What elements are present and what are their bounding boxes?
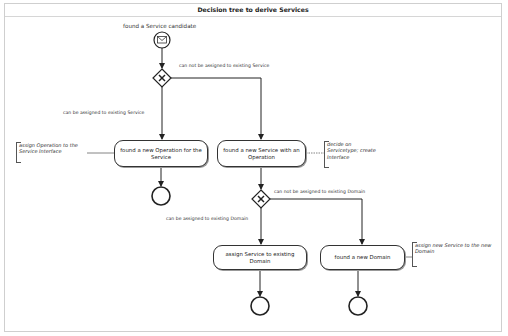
task-label: found a new Service with an Operation	[222, 147, 301, 161]
end-event-2[interactable]	[251, 297, 269, 315]
sequence-flow-gw1-no	[171, 78, 261, 139]
start-event-label: found a Service candidate	[123, 23, 196, 29]
sequence-flow-gw2-no	[270, 199, 362, 244]
task-found-new-operation[interactable]: found a new Operation for the Service	[114, 140, 208, 167]
flow-label-gw2-yes: can be assigned to existing Domain	[166, 216, 248, 222]
start-event[interactable]	[154, 32, 170, 48]
flow-label-gw1-no: can not be assigned to existing Service	[179, 63, 269, 69]
annotation-line: Service Interface	[19, 148, 88, 154]
flow-label-gw1-yes: can be assigned to existing Service	[63, 110, 144, 116]
annotation-bracket	[16, 142, 21, 163]
exclusive-gateway-1[interactable]	[153, 69, 171, 87]
annotation-operation-interface[interactable]: assign Operation to the Service Interfac…	[16, 142, 88, 163]
task-found-new-domain[interactable]: found a new Domain	[320, 245, 405, 270]
task-found-new-service[interactable]: found a new Service with an Operation	[217, 140, 306, 167]
annotation-line: Domain	[415, 248, 502, 254]
annotation-bracket	[412, 242, 417, 267]
annotation-bracket	[324, 141, 329, 168]
annotation-line: Interface	[327, 154, 388, 160]
task-label: found a new Domain	[335, 254, 391, 261]
exclusive-gateway-2[interactable]	[252, 190, 270, 208]
task-label: assign Service to existing Domain	[218, 251, 302, 265]
flow-label-gw2-no: can not be assigned to existing Domain	[274, 189, 365, 195]
end-event-3[interactable]	[349, 297, 367, 315]
annotation-servicetype[interactable]: decide on Servicetype; create Interface	[324, 141, 388, 168]
task-label: found a new Operation for the Service	[119, 147, 203, 161]
end-event-1[interactable]	[152, 187, 170, 205]
annotation-new-domain[interactable]: assign new Service to the new Domain	[412, 242, 502, 267]
task-assign-existing-domain[interactable]: assign Service to existing Domain	[213, 245, 307, 270]
diagram-canvas	[0, 0, 508, 336]
